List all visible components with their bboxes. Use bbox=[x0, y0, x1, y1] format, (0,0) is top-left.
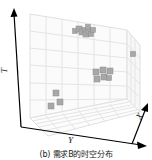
data-point-marker bbox=[53, 90, 59, 96]
data-point-marker bbox=[93, 69, 99, 75]
data-point-marker bbox=[86, 25, 91, 30]
scatter-plot-3d-canvas bbox=[0, 0, 152, 150]
data-point-marker bbox=[94, 76, 100, 82]
data-point-marker bbox=[107, 76, 112, 81]
figure-3d-scatter: T Y X (b) 需求B的时空分布 bbox=[0, 0, 152, 160]
time-axis-arrowhead bbox=[11, 8, 18, 17]
data-point-marker bbox=[91, 28, 96, 33]
data-point-marker bbox=[48, 103, 54, 109]
data-point-marker bbox=[100, 67, 106, 73]
data-point-marker bbox=[57, 99, 63, 105]
figure-caption: (b) 需求B的时空分布 bbox=[0, 150, 152, 160]
data-point-marker bbox=[107, 68, 113, 74]
side-wall-pane bbox=[127, 30, 140, 112]
y-axis-line bbox=[21, 127, 141, 145]
time-axis-line bbox=[14, 13, 21, 127]
time-axis-label: T bbox=[0, 68, 9, 73]
y-axis-label: Y bbox=[68, 136, 73, 145]
data-point-marker bbox=[131, 52, 136, 57]
y-axis-arrowhead bbox=[137, 142, 147, 150]
x-axis-arrowhead bbox=[141, 103, 148, 112]
data-point-marker bbox=[101, 74, 107, 80]
